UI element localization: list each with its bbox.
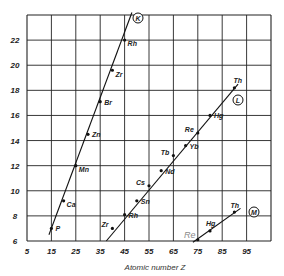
- y-tick-label: 22: [10, 36, 20, 45]
- x-axis-ticks: 5152535455565758595: [25, 247, 252, 256]
- point-label: Cs: [136, 179, 145, 186]
- data-point: [172, 154, 175, 157]
- y-tick-label: 6: [13, 237, 18, 246]
- data-point: [184, 144, 187, 147]
- series-k: PCaMnZnBrZrRh: [49, 12, 137, 234]
- data-point: [123, 213, 126, 216]
- data-point: [147, 184, 150, 187]
- series-m-marker: M: [249, 207, 259, 217]
- y-axis-ticks: 6810121416182022: [10, 36, 20, 246]
- point-label: P: [55, 225, 60, 232]
- point-label: Mn: [79, 166, 89, 173]
- y-tick-label: 18: [11, 86, 20, 95]
- data-point: [233, 86, 236, 89]
- data-point: [111, 227, 114, 230]
- data-point: [86, 133, 89, 136]
- point-label: Sn: [141, 198, 150, 205]
- data-series: PCaMnZnBrZrRhZrRhSnCsNdTbYbReHgThHgTh: [49, 12, 242, 242]
- data-point: [74, 164, 77, 167]
- series-k-marker: K: [133, 13, 143, 23]
- x-tick-label: 75: [193, 247, 202, 256]
- point-label: Th: [233, 77, 242, 84]
- data-point: [123, 39, 126, 42]
- data-point: [111, 69, 114, 72]
- svg-text:L: L: [236, 97, 240, 104]
- series-annotations: KLMRe: [133, 13, 259, 240]
- series-l-marker: L: [233, 95, 243, 105]
- moseley-chart: 6810121416182022 5152535455565758595 PCa…: [0, 0, 284, 276]
- data-point: [208, 114, 211, 117]
- x-tick-label: 35: [96, 247, 105, 256]
- point-label: Zn: [91, 131, 101, 138]
- y-tick-label: 16: [11, 111, 20, 120]
- point-label: Th: [230, 202, 239, 209]
- x-tick-label: 25: [70, 247, 80, 256]
- y-tick-label: 14: [11, 137, 20, 146]
- data-point: [160, 169, 163, 172]
- x-axis-label: Atomic number Z: [124, 263, 187, 272]
- point-label: Ca: [67, 201, 76, 208]
- data-point: [208, 229, 211, 232]
- data-point: [196, 131, 199, 134]
- ghost-re-label: Re: [184, 230, 196, 240]
- point-label: Rh: [129, 212, 138, 219]
- point-label: Zr: [100, 221, 109, 228]
- point-label: Rh: [128, 40, 137, 47]
- data-point: [196, 238, 199, 241]
- x-tick-label: 55: [145, 247, 154, 256]
- data-point: [135, 199, 138, 202]
- x-tick-label: 45: [119, 247, 129, 256]
- point-label: Tb: [161, 149, 170, 156]
- svg-text:M: M: [251, 209, 257, 216]
- x-tick-label: 15: [47, 247, 56, 256]
- series-m: HgTh: [193, 202, 241, 242]
- y-tick-label: 20: [10, 61, 20, 70]
- data-point: [233, 211, 236, 214]
- point-label: Nd: [165, 168, 175, 175]
- data-point: [62, 199, 65, 202]
- point-label: Hg: [214, 112, 224, 120]
- y-tick-label: 10: [11, 187, 20, 196]
- x-tick-label: 65: [169, 247, 178, 256]
- x-tick-label: 95: [242, 247, 251, 256]
- data-point: [50, 227, 53, 230]
- point-label: Hg: [206, 220, 216, 228]
- data-point: [99, 100, 102, 103]
- x-tick-label: 5: [25, 247, 30, 256]
- point-label: Br: [104, 99, 113, 106]
- series-l: ZrRhSnCsNdTbYbReHgTh: [100, 77, 242, 241]
- series-line: [49, 12, 132, 234]
- series-line: [106, 84, 238, 241]
- point-label: Re: [185, 126, 194, 133]
- point-label: Yb: [190, 143, 200, 150]
- x-tick-label: 85: [218, 247, 227, 256]
- y-tick-label: 12: [11, 162, 20, 171]
- series-line: [193, 208, 241, 242]
- point-label: Zr: [114, 71, 123, 78]
- y-tick-label: 8: [13, 212, 18, 221]
